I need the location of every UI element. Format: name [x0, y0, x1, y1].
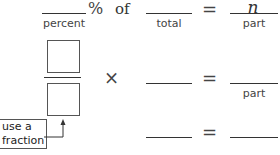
equals-sign-1: = — [202, 1, 217, 19]
part-label-2: part — [230, 87, 278, 100]
percent-label: percent — [38, 17, 90, 30]
times-symbol: × — [104, 69, 119, 87]
blank-row3-right[interactable] — [230, 137, 278, 138]
blank-row3-left[interactable] — [146, 137, 192, 138]
percent-symbol: % — [88, 1, 103, 17]
use-fraction-hint: use a fraction — [0, 119, 47, 149]
equals-sign-3: = — [202, 124, 217, 142]
denominator-box[interactable] — [47, 83, 80, 116]
arrow-icon — [44, 118, 68, 140]
total-label: total — [146, 17, 192, 30]
part-blank-1 — [230, 13, 278, 14]
total-blank-2[interactable] — [146, 83, 192, 84]
equals-sign-2: = — [202, 70, 217, 88]
numerator-box[interactable] — [47, 40, 80, 73]
part-label-1: part — [230, 17, 278, 30]
of-word: of — [115, 2, 130, 17]
total-blank[interactable] — [146, 13, 192, 14]
fraction-bar — [44, 77, 81, 78]
hint-line-1: use a — [2, 120, 44, 134]
part-blank-2[interactable] — [230, 83, 278, 84]
hint-line-2: fraction — [2, 134, 44, 148]
percent-blank[interactable] — [42, 13, 86, 14]
